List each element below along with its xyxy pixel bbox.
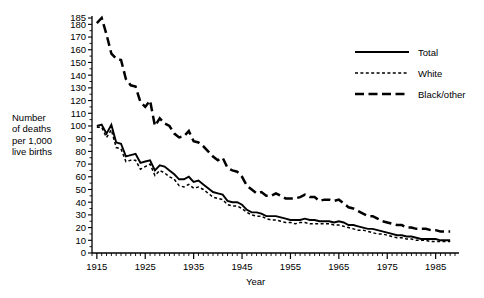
x-axis-title: Year bbox=[246, 276, 265, 287]
x-tick-label: 1965 bbox=[328, 261, 349, 272]
legend-label-white: White bbox=[418, 68, 442, 79]
series-line-black-other bbox=[97, 18, 450, 231]
legend-label-black-other: Black/other bbox=[418, 89, 466, 100]
y-tick-label: 60 bbox=[75, 171, 86, 182]
x-tick-label: 1935 bbox=[183, 261, 204, 272]
y-tick-label: 30 bbox=[75, 209, 86, 220]
y-tick-label: 150 bbox=[70, 57, 86, 68]
x-tick-label: 1955 bbox=[280, 261, 301, 272]
y-tick-label: 185 bbox=[70, 12, 86, 23]
y-tick-label: 50 bbox=[75, 184, 86, 195]
x-tick-label: 1945 bbox=[231, 261, 252, 272]
y-tick-label: 10 bbox=[75, 235, 86, 246]
legend: TotalWhiteBlack/other bbox=[355, 47, 466, 100]
y-tick-label: 40 bbox=[75, 197, 86, 208]
x-tick-label: 1925 bbox=[135, 261, 156, 272]
legend-label-total: Total bbox=[418, 47, 438, 58]
y-tick-label: 70 bbox=[75, 158, 86, 169]
series-line-total bbox=[97, 125, 450, 241]
y-tick-label: 0 bbox=[81, 247, 86, 258]
y-tick-label: 170 bbox=[70, 31, 86, 42]
y-axis-title: Number of deaths per 1,000 live births bbox=[12, 112, 84, 158]
x-axis: 19151925193519451955196519751985 bbox=[86, 253, 459, 272]
x-tick-label: 1915 bbox=[86, 261, 107, 272]
y-tick-label: 20 bbox=[75, 222, 86, 233]
infant-mortality-line-chart: 0102030405060708090100110120130140150160… bbox=[0, 0, 484, 298]
y-tick-label: 120 bbox=[70, 95, 86, 106]
x-tick-label: 1975 bbox=[377, 261, 398, 272]
x-tick-label: 1985 bbox=[425, 261, 446, 272]
y-tick-label: 130 bbox=[70, 82, 86, 93]
y-tick-label: 140 bbox=[70, 70, 86, 81]
y-tick-label: 160 bbox=[70, 44, 86, 55]
